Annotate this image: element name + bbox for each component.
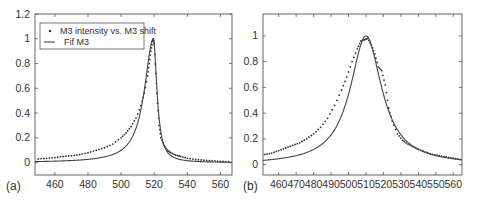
x-tick-label: 460 (46, 178, 64, 190)
panel-label: (a) (6, 179, 21, 193)
data-marker (93, 150, 95, 152)
data-marker (292, 144, 294, 146)
data-marker (381, 70, 383, 72)
legend-entry-label: M3 intensity vs. M3 shift (60, 26, 157, 36)
data-marker (57, 156, 59, 158)
data-marker (184, 157, 186, 159)
data-marker (342, 85, 344, 87)
figure: 46048050052054056000.20.40.60.811.2M3 in… (0, 0, 477, 202)
data-marker (211, 160, 213, 162)
data-marker (310, 135, 312, 137)
fit-line (35, 39, 232, 162)
data-marker (133, 120, 135, 122)
data-marker (79, 154, 81, 156)
data-marker (84, 152, 86, 154)
data-marker (192, 158, 194, 160)
data-marker (353, 56, 355, 58)
data-marker (296, 143, 298, 145)
data-marker (303, 139, 305, 141)
data-marker (95, 149, 97, 151)
data-marker (40, 158, 42, 160)
data-marker (315, 131, 317, 133)
data-marker (172, 153, 174, 155)
data-marker (178, 155, 180, 157)
x-tick-label: 540 (410, 178, 428, 190)
x-tick-label: 540 (179, 178, 197, 190)
x-tick-label: 500 (340, 178, 358, 190)
data-marker (336, 99, 338, 101)
data-marker (271, 152, 273, 154)
data-marker (313, 133, 315, 135)
data-marker (68, 155, 70, 157)
data-marker (208, 160, 210, 162)
data-marker (329, 113, 331, 115)
data-marker (200, 159, 202, 161)
data-marker (138, 109, 140, 111)
data-marker (398, 135, 400, 137)
y-tick-label: 1 (24, 32, 30, 44)
x-tick-label: 550 (427, 178, 445, 190)
data-marker (180, 156, 182, 158)
data-marker (125, 132, 127, 134)
data-marker (322, 123, 324, 125)
data-marker (384, 84, 386, 86)
data-marker (287, 146, 289, 148)
data-marker (405, 142, 407, 144)
legend-entry-label: Fif M3 (64, 37, 89, 47)
data-marker (48, 157, 50, 159)
data-marker (130, 126, 132, 128)
data-marker (320, 126, 322, 128)
data-marker (346, 76, 348, 78)
data-marker (317, 129, 319, 131)
data-marker (73, 154, 75, 156)
data-marker (46, 157, 48, 159)
data-marker (115, 141, 117, 143)
data-marker (273, 151, 275, 153)
data-marker (299, 142, 301, 144)
data-marker (266, 153, 268, 155)
data-marker (331, 109, 333, 111)
data-marker (285, 147, 287, 149)
data-marker (294, 144, 296, 146)
data-marker (104, 147, 106, 149)
data-marker (359, 43, 361, 45)
data-marker (289, 145, 291, 147)
data-marker (275, 150, 277, 152)
data-marker (356, 48, 358, 50)
data-marker (176, 155, 178, 157)
data-marker (71, 155, 73, 157)
fit-line (263, 36, 462, 160)
data-marker (101, 148, 103, 150)
data-marker (324, 120, 326, 122)
y-tick-label: 0 (24, 156, 30, 168)
data-marker (123, 134, 125, 136)
y-tick-label: 0.8 (243, 55, 258, 67)
data-marker (383, 79, 385, 81)
data-marker (122, 135, 124, 137)
data-marker (135, 117, 137, 119)
data-marker (59, 156, 61, 158)
data-marker (98, 149, 100, 151)
data-marker (308, 136, 310, 138)
x-tick-label: 460 (270, 178, 288, 190)
data-marker (341, 89, 343, 91)
x-tick-label: 490 (322, 178, 340, 190)
panel-label: (b) (243, 179, 258, 193)
data-marker (43, 158, 45, 160)
x-tick-label: 500 (112, 178, 130, 190)
y-tick-label: 0.2 (15, 131, 30, 143)
data-marker (62, 156, 64, 158)
data-marker (402, 139, 404, 141)
plot-frame (263, 14, 462, 175)
data-marker (301, 141, 303, 143)
data-marker (182, 156, 184, 158)
data-marker (355, 52, 357, 54)
data-marker (65, 155, 67, 157)
data-marker (132, 123, 134, 125)
data-marker (87, 152, 89, 154)
data-marker (76, 154, 78, 156)
x-tick-label: 480 (79, 178, 97, 190)
data-marker (327, 117, 329, 119)
data-marker (206, 159, 208, 161)
data-marker (203, 159, 205, 161)
